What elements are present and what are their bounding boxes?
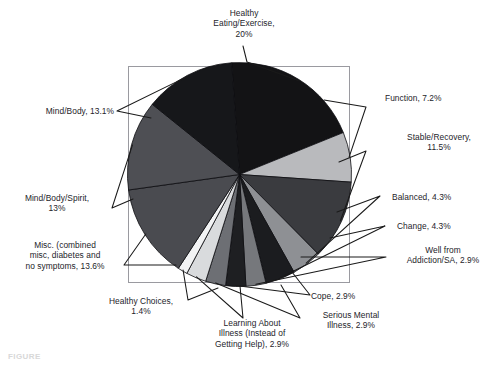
- label-cope: Cope, 2.9%: [311, 291, 401, 301]
- pie-chart-figure: Healthy Eating/Exercise, 20% Function, 7…: [0, 0, 499, 365]
- label-balanced: Balanced, 4.3%: [392, 192, 496, 202]
- label-mind-body-spirit: Mind/Body/Spirit, 13%: [6, 193, 108, 214]
- label-change: Change, 4.3%: [397, 221, 497, 231]
- label-healthy-choices: Healthy Choices, 1.4%: [93, 296, 189, 317]
- label-function: Function, 7.2%: [385, 93, 497, 103]
- label-serious-mental-illness: Serious Mental Illness, 2.9%: [303, 310, 399, 331]
- label-stable-recovery: Stable/Recovery, 11.5%: [383, 132, 495, 153]
- pie-chart-canvas: [0, 0, 499, 365]
- figure-caption: FIGURE: [8, 352, 41, 361]
- label-learning-about-illness: Learning About Illness (Instead of Getti…: [196, 318, 308, 349]
- label-healthy-eating-exercise: Healthy Eating/Exercise, 20%: [186, 8, 302, 39]
- label-well-from-addiction: Well from Addiction/SA, 2.9%: [389, 245, 497, 266]
- label-mind-body: Mind/Body, 13.1%: [18, 106, 114, 116]
- label-misc-combined: Misc. (combined misc, diabetes and no sy…: [7, 240, 123, 271]
